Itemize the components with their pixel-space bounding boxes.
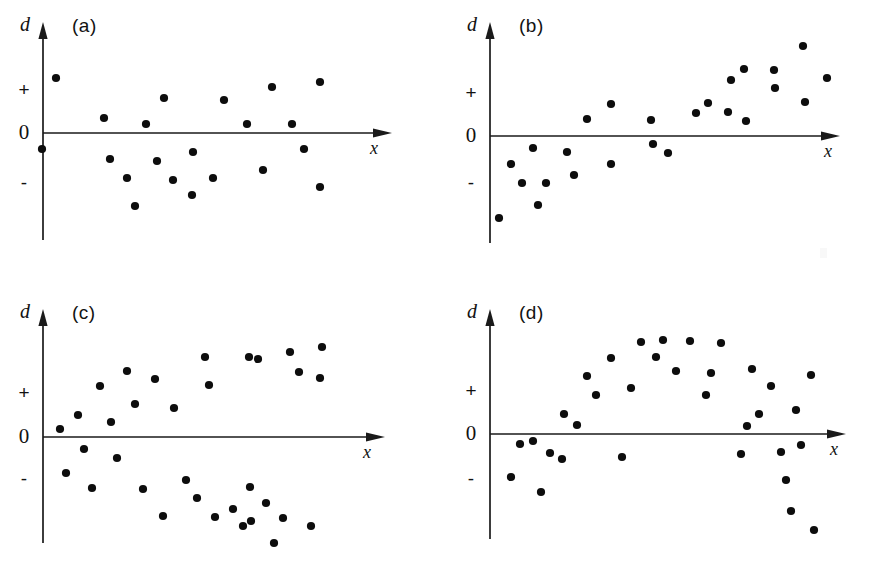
- data-point: [288, 120, 296, 128]
- data-point: [627, 384, 635, 392]
- data-point: [80, 445, 88, 453]
- panel-c-plot: [0, 281, 440, 562]
- panel-a: d (a) x + 0 -: [0, 0, 440, 281]
- data-point: [770, 66, 778, 74]
- data-point: [106, 155, 114, 163]
- data-point: [755, 410, 763, 418]
- data-point: [727, 76, 735, 84]
- panel-d-tick-minus: -: [461, 469, 481, 488]
- data-point: [279, 514, 287, 522]
- data-point: [142, 120, 150, 128]
- data-point: [649, 140, 657, 148]
- panel-c-x-axis-label: x: [363, 443, 371, 461]
- data-point: [737, 450, 745, 458]
- data-point: [570, 171, 578, 179]
- data-point: [205, 381, 213, 389]
- data-point: [771, 84, 779, 92]
- data-point: [243, 120, 251, 128]
- data-point: [573, 421, 581, 429]
- data-point: [182, 476, 190, 484]
- data-point: [799, 42, 807, 50]
- data-point: [170, 404, 178, 412]
- data-point: [209, 174, 217, 182]
- data-point: [647, 116, 655, 124]
- data-point: [659, 336, 667, 344]
- panel-d-tick-zero: 0: [461, 423, 481, 444]
- data-point: [56, 425, 64, 433]
- panel-d-tick-plus: +: [461, 381, 481, 400]
- x-axis-arrowhead: [373, 128, 392, 137]
- data-point: [507, 160, 515, 168]
- y-axis-arrowhead: [485, 22, 494, 39]
- panel-c-y-axis-label: d: [20, 301, 30, 321]
- data-point: [38, 145, 46, 153]
- data-point: [592, 391, 600, 399]
- data-point: [123, 174, 131, 182]
- data-point: [529, 437, 537, 445]
- data-point: [300, 145, 308, 153]
- panel-b-label: (b): [519, 16, 544, 35]
- data-point: [797, 441, 805, 449]
- data-point: [637, 338, 645, 346]
- panel-b-tick-plus: +: [461, 83, 481, 102]
- data-point: [201, 353, 209, 361]
- panel-b-x-axis-label: x: [824, 142, 832, 160]
- panel-a-tick-zero: 0: [14, 122, 34, 143]
- data-point: [131, 202, 139, 210]
- data-point: [516, 440, 524, 448]
- data-point: [229, 505, 237, 513]
- panel-d-x-axis-label: x: [830, 440, 838, 458]
- data-point: [704, 99, 712, 107]
- data-point: [153, 157, 161, 165]
- data-point: [259, 166, 267, 174]
- data-point: [529, 144, 537, 152]
- data-point: [316, 374, 324, 382]
- data-point: [74, 411, 82, 419]
- data-point: [245, 353, 253, 361]
- data-point: [286, 348, 294, 356]
- residual-plots-figure: d (a) x + 0 - d (b) x + 0 - d (c) x + 0 …: [0, 0, 881, 562]
- panel-c-tick-minus: -: [14, 469, 34, 488]
- panel-a-tick-minus: -: [14, 173, 34, 192]
- data-point: [542, 179, 550, 187]
- data-point: [607, 160, 615, 168]
- data-point: [672, 367, 680, 375]
- data-point: [767, 382, 775, 390]
- data-point: [807, 371, 815, 379]
- panel-b: d (b) x + 0 -: [441, 0, 881, 281]
- panel-c-label: (c): [72, 303, 96, 322]
- x-axis-arrowhead: [821, 131, 840, 140]
- panel-a-x-axis-label: x: [370, 139, 378, 157]
- panel-d-y-axis-label: d: [467, 301, 477, 321]
- data-point: [560, 410, 568, 418]
- data-point: [246, 483, 254, 491]
- x-axis-arrowhead: [827, 429, 846, 438]
- data-point: [518, 179, 526, 187]
- data-point: [664, 149, 672, 157]
- data-point: [748, 365, 756, 373]
- panel-d-label: (d): [519, 303, 544, 322]
- panel-b-tick-minus: -: [461, 173, 481, 192]
- data-point: [782, 476, 790, 484]
- data-point: [583, 372, 591, 380]
- data-point: [123, 367, 131, 375]
- data-point: [801, 98, 809, 106]
- data-point: [254, 355, 262, 363]
- data-point: [742, 117, 750, 125]
- data-point: [546, 449, 554, 457]
- panel-d: d (d) x + 0 -: [441, 281, 881, 562]
- panel-c-tick-zero: 0: [14, 426, 34, 447]
- data-point: [268, 83, 276, 91]
- panel-c-tick-plus: +: [14, 383, 34, 402]
- data-point: [717, 339, 725, 347]
- data-point: [318, 343, 326, 351]
- data-point: [558, 455, 566, 463]
- data-point: [211, 513, 219, 521]
- data-point: [810, 526, 818, 534]
- panel-b-plot: [441, 0, 881, 281]
- data-point: [507, 473, 515, 481]
- data-point: [169, 176, 177, 184]
- data-point: [652, 353, 660, 361]
- data-point: [270, 539, 278, 547]
- data-point: [618, 453, 626, 461]
